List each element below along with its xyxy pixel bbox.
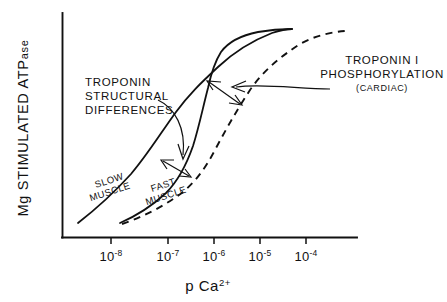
annotation-troponin-i-phosphorylation: TROPONIN I PHOSPHORYLATION (CARDIAC) [320,54,444,93]
x-axis-tick-labels: 10-8 10-7 10-6 10-5 10-4 [99,248,317,264]
x-tick-label-4: 10-4 [294,248,317,264]
annotation-left-line-1: TROPONIN [85,76,151,88]
x-axis-title: p Ca2+ [185,277,231,294]
x-axis-ticks [111,238,306,245]
x-tick-label-1: 10-7 [156,248,179,264]
annotation-left-line-3: DIFFERENCES [85,104,173,116]
x-tick-label-3: 10-5 [248,248,271,264]
x-tick-label-0: 10-8 [99,248,122,264]
figure-root: 10-8 10-7 10-6 10-5 10-4 p Ca2+ Mg STIMU… [0,0,447,302]
annotation-right-line-2: PHOSPHORYLATION [320,68,444,80]
y-axis-title: Mg STIMULATED ATPase [15,39,31,216]
annotation-left-line-2: STRUCTURAL [85,90,169,102]
leader-troponin-i-phosphorylation [232,81,330,92]
curve-label-fast-muscle: FAST MUSCLE [141,173,188,207]
atpase-calcium-plot: 10-8 10-7 10-6 10-5 10-4 p Ca2+ Mg STIMU… [0,0,447,302]
curve-fast-muscle [120,29,292,223]
x-tick-label-2: 10-6 [202,248,225,264]
annotation-right-subline: (CARDIAC) [356,83,408,93]
axes-group [62,13,357,238]
annotation-right-line-1: TROPONIN I [345,54,419,66]
series-group [78,29,345,224]
annotation-troponin-structural-differences: TROPONIN STRUCTURAL DIFFERENCES [85,76,173,116]
